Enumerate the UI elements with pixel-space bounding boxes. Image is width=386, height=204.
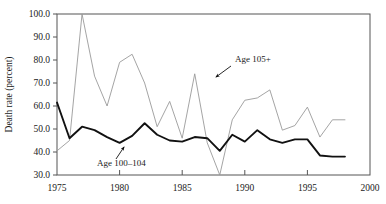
x-axis-tick-label: 2000: [361, 183, 380, 193]
x-axis-tick-label: 1975: [48, 183, 67, 193]
line-chart: 30.040.050.060.070.080.090.0100.01975198…: [0, 0, 386, 204]
y-axis-tick-label: 50.0: [33, 124, 50, 134]
series-line-age-105: [57, 14, 345, 175]
y-axis-tick-label: 60.0: [33, 101, 50, 111]
plot-frame: [57, 14, 370, 175]
y-axis-tick-label: 100.0: [29, 9, 51, 19]
x-axis-tick-label: 1995: [298, 183, 317, 193]
x-axis-tick-label: 1990: [235, 183, 254, 193]
x-axis-tick-label: 1980: [110, 183, 129, 193]
x-axis-tick-label: 1985: [173, 183, 192, 193]
y-axis-tick-label: 40.0: [33, 147, 50, 157]
y-axis-tick-label: 70.0: [33, 78, 50, 88]
annotation-age-105-plus-arrow: [216, 66, 231, 77]
y-axis-tick-label: 30.0: [33, 170, 50, 180]
y-axis-tick-label: 80.0: [33, 55, 50, 65]
chart-figure: 30.040.050.060.070.080.090.0100.01975198…: [0, 0, 386, 204]
annotation-age-100-104-label: Age 100–104: [97, 158, 146, 168]
y-axis-tick-label: 90.0: [33, 32, 50, 42]
y-axis-title: Death rate (percent): [4, 57, 15, 133]
annotation-age-105-plus-label: Age 105+: [235, 54, 271, 64]
